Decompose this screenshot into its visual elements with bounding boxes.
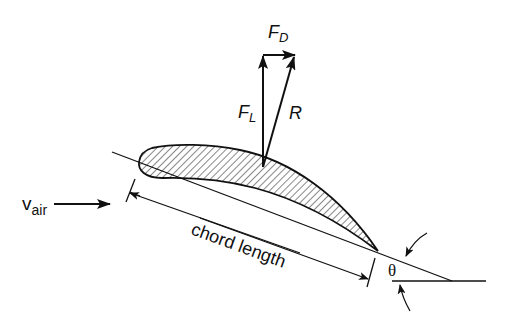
chord-extension-left [126, 179, 135, 202]
chord-extension-right [367, 258, 375, 287]
air-velocity-label: vair [22, 193, 47, 218]
drag-force-label: FD [268, 22, 288, 45]
resultant-label: R [289, 103, 302, 123]
airfoil-shape [139, 145, 378, 251]
angle-arrow-top [406, 233, 427, 256]
lift-force-label: FL [238, 102, 256, 125]
airfoil-diagram: FD FL R vair chord length θ [0, 0, 508, 331]
angle-label: θ [388, 261, 396, 280]
diagram-svg: FD FL R vair chord length θ [0, 0, 508, 331]
angle-arrow-bottom [400, 285, 410, 311]
